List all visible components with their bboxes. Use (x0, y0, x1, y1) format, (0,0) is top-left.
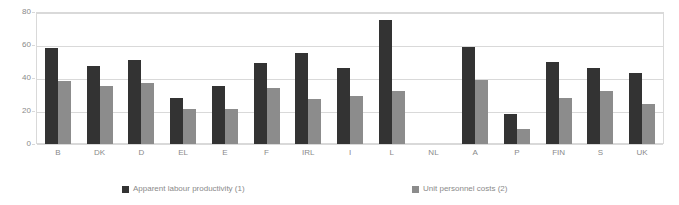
y-axis-tick-mark (32, 78, 35, 79)
bar[interactable] (128, 60, 141, 144)
x-axis-tick-label: D (120, 146, 162, 160)
bar[interactable] (517, 129, 530, 144)
bar[interactable] (225, 109, 238, 144)
x-axis-tick-label: FIN (538, 146, 580, 160)
y-axis-tick-mark (32, 111, 35, 112)
bar[interactable] (141, 83, 154, 144)
bar[interactable] (600, 91, 613, 144)
x-axis-tick-label: EL (162, 146, 204, 160)
bar-group (246, 12, 288, 144)
bar[interactable] (337, 68, 350, 144)
y-axis-tick-label: 0 (0, 140, 31, 148)
bar[interactable] (350, 96, 363, 144)
y-axis-tick-label: 80 (0, 8, 31, 16)
bar[interactable] (267, 88, 280, 144)
bar[interactable] (254, 63, 267, 144)
bar[interactable] (58, 81, 71, 144)
bar[interactable] (462, 47, 475, 144)
x-axis-tick-label: NL (413, 146, 455, 160)
x-axis-tick-label: I (329, 146, 371, 160)
bar-group (162, 12, 204, 144)
x-axis-tick-label: A (454, 146, 496, 160)
bar[interactable] (379, 20, 392, 144)
bar[interactable] (45, 48, 58, 144)
x-axis-tick-label: P (496, 146, 538, 160)
x-axis-tick-label: UK (621, 146, 663, 160)
bar[interactable] (295, 53, 308, 144)
x-axis-tick-label: L (371, 146, 413, 160)
legend-item-label: Unit personnel costs (2) (423, 185, 507, 193)
y-axis-tick-label: 20 (0, 107, 31, 115)
y-axis-tick-label: 60 (0, 41, 31, 49)
y-axis-labels: 020406080 (0, 12, 31, 144)
bar-group (580, 12, 622, 144)
bar-groups (37, 12, 663, 144)
y-axis-tick-mark (32, 12, 35, 13)
bar-chart: 020406080 BDKDELEFIRLILNLAPFINSUK Appare… (0, 0, 679, 205)
bar-group (496, 12, 538, 144)
x-axis-tick-label: IRL (287, 146, 329, 160)
bar-group (329, 12, 371, 144)
bar[interactable] (629, 73, 642, 144)
x-axis-tick-label: E (204, 146, 246, 160)
bar-group (454, 12, 496, 144)
legend-swatch-icon (412, 186, 419, 193)
x-axis-labels: BDKDELEFIRLILNLAPFINSUK (37, 146, 663, 160)
bar-group (120, 12, 162, 144)
x-axis-tick-label: DK (79, 146, 121, 160)
bar[interactable] (475, 80, 488, 144)
bar-group (37, 12, 79, 144)
bar[interactable] (100, 86, 113, 144)
bar-group (413, 12, 455, 144)
bar[interactable] (559, 98, 572, 144)
bar[interactable] (504, 114, 517, 144)
y-axis-tick-mark (32, 45, 35, 46)
bar[interactable] (87, 66, 100, 144)
chart-legend: Apparent labour productivity (1) Unit pe… (36, 182, 664, 196)
bar-group (79, 12, 121, 144)
bar[interactable] (212, 86, 225, 144)
legend-item-unit-personnel-costs[interactable]: Unit personnel costs (2) (412, 182, 507, 196)
bar[interactable] (308, 99, 321, 144)
bar-group (371, 12, 413, 144)
bar[interactable] (170, 98, 183, 144)
bar-group (538, 12, 580, 144)
x-axis-tick-label: S (580, 146, 622, 160)
x-axis-tick-label: F (246, 146, 288, 160)
bar-group (204, 12, 246, 144)
legend-item-apparent-labour-productivity[interactable]: Apparent labour productivity (1) (122, 182, 245, 196)
legend-item-label: Apparent labour productivity (1) (133, 185, 245, 193)
legend-swatch-icon (122, 186, 129, 193)
bar[interactable] (183, 109, 196, 144)
gridline (37, 144, 663, 145)
bar[interactable] (546, 62, 559, 145)
bar[interactable] (642, 104, 655, 144)
y-axis-tick-label: 40 (0, 74, 31, 82)
y-axis-tick-mark (32, 144, 35, 145)
bar[interactable] (587, 68, 600, 144)
bar-group (621, 12, 663, 144)
x-axis-tick-label: B (37, 146, 79, 160)
bar[interactable] (392, 91, 405, 144)
bar-group (287, 12, 329, 144)
